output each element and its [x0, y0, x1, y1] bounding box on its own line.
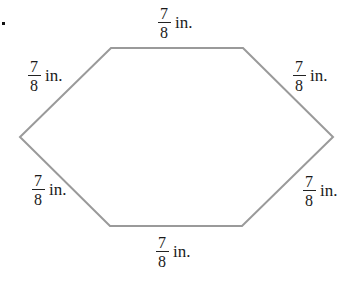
fraction-numerator: 7: [158, 235, 166, 250]
fraction-bar: [303, 190, 316, 191]
unit-label: in.: [175, 14, 192, 31]
side-label-bottom: 7 8 in.: [155, 235, 190, 269]
fraction-denominator: 8: [295, 78, 303, 93]
side-label-top: 7 8 in.: [157, 6, 192, 40]
fraction: 7 8: [27, 59, 41, 93]
fraction-bar: [28, 75, 41, 76]
unit-label: in.: [45, 67, 62, 84]
fraction: 7 8: [302, 174, 316, 208]
fraction-numerator: 7: [30, 59, 38, 74]
fraction-bar: [158, 22, 171, 23]
fraction: 7 8: [31, 173, 45, 207]
hexagon-figure: 7 8 in. 7 8 in. 7 8 in. 7 8 in.: [0, 0, 343, 285]
fraction: 7 8: [155, 235, 169, 269]
unit-label: in.: [320, 182, 337, 199]
hexagon-outline: [20, 48, 333, 226]
side-label-bottom-right: 7 8 in.: [302, 174, 337, 208]
side-label-top-left: 7 8 in.: [27, 59, 62, 93]
fraction-denominator: 8: [34, 192, 42, 207]
fraction-numerator: 7: [160, 6, 168, 21]
unit-label: in.: [49, 181, 66, 198]
side-label-top-right: 7 8 in.: [292, 59, 327, 93]
unit-label: in.: [310, 67, 327, 84]
fraction-denominator: 8: [305, 193, 313, 208]
unit-label: in.: [173, 243, 190, 260]
fraction-bar: [156, 251, 169, 252]
fraction-bar: [32, 189, 45, 190]
fraction: 7 8: [292, 59, 306, 93]
fraction-denominator: 8: [160, 25, 168, 40]
fraction: 7 8: [157, 6, 171, 40]
fraction-denominator: 8: [158, 254, 166, 269]
fraction-numerator: 7: [305, 174, 313, 189]
fraction-numerator: 7: [34, 173, 42, 188]
fraction-denominator: 8: [30, 78, 38, 93]
fraction-bar: [293, 75, 306, 76]
fraction-numerator: 7: [295, 59, 303, 74]
side-label-bottom-left: 7 8 in.: [31, 173, 66, 207]
